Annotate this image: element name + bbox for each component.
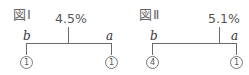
figure-2-percentage: 5.1% xyxy=(208,11,240,26)
figure-1-right-drop xyxy=(111,43,112,55)
figure-2-left-drop xyxy=(152,43,153,55)
figure-2-left-count: 4 xyxy=(146,56,159,69)
figure-2-stem xyxy=(219,27,220,43)
figure-1-stem xyxy=(68,27,69,43)
figure-1-left-drop xyxy=(26,43,27,55)
figure-2-left-label: b xyxy=(150,29,158,43)
figure-1: 図Ⅰ 4.5% b a 1 1 xyxy=(0,0,124,75)
figure-2-crossbar xyxy=(152,43,237,44)
figure-1-right-count: 1 xyxy=(105,56,118,69)
figure-2-right-drop xyxy=(236,43,237,55)
figure-2-right-count: 1 xyxy=(230,56,243,69)
figure-1-left-label: b xyxy=(23,29,31,43)
figure-1-percentage: 4.5% xyxy=(55,11,87,26)
figure-1-crossbar xyxy=(26,43,112,44)
figure-1-left-count: 1 xyxy=(20,56,33,69)
figure-1-right-label: a xyxy=(106,29,113,43)
figure-2-right-label: a xyxy=(231,29,238,43)
figure-2-title: 図Ⅱ xyxy=(139,4,160,23)
figure-2: 図Ⅱ 5.1% b a 4 1 xyxy=(124,0,248,75)
figure-1-title: 図Ⅰ xyxy=(13,4,32,23)
